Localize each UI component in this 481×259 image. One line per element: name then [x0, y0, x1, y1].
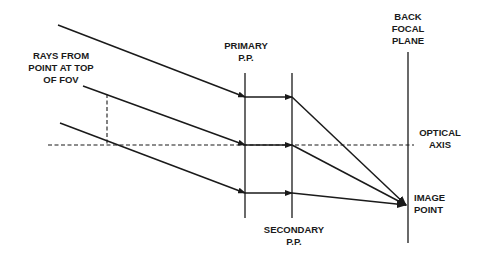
back-focal-plane-label: BACK FOCAL PLANE [384, 11, 432, 47]
ray-top-outgoing [292, 97, 406, 205]
secondary-pp-label: SECONDARY P.P. [256, 224, 332, 248]
back-focal-plane-label-line-2: FOCAL [384, 23, 432, 35]
optical-axis-label-line-2: AXIS [414, 139, 466, 151]
rays-source-label-line-2: POINT AT TOP [22, 62, 100, 74]
image-point-label: IMAGE POINT [414, 192, 454, 216]
primary-pp-label-line-2: P.P. [218, 52, 274, 64]
rays-source-label: RAYS FROM POINT AT TOP OF FOV [22, 50, 100, 86]
back-focal-plane-label-line-1: BACK [384, 11, 432, 23]
image-point-label-line-2: POINT [414, 204, 454, 216]
ray-middle-outgoing [292, 145, 406, 205]
secondary-pp-label-line-2: P.P. [256, 236, 332, 248]
image-point-label-line-1: IMAGE [414, 192, 454, 204]
optical-axis-label-line-1: OPTICAL [414, 127, 466, 139]
optical-axis-label: OPTICAL AXIS [414, 127, 466, 151]
primary-pp-label: PRIMARY P.P. [218, 40, 274, 64]
primary-pp-label-line-1: PRIMARY [218, 40, 274, 52]
ray-bottom-incoming [60, 123, 245, 193]
ray-bottom-outgoing [292, 193, 406, 205]
rays-source-label-line-3: OF FOV [22, 74, 100, 86]
back-focal-plane-label-line-3: PLANE [384, 35, 432, 47]
secondary-pp-label-line-1: SECONDARY [256, 224, 332, 236]
rays-source-label-line-1: RAYS FROM [22, 50, 100, 62]
